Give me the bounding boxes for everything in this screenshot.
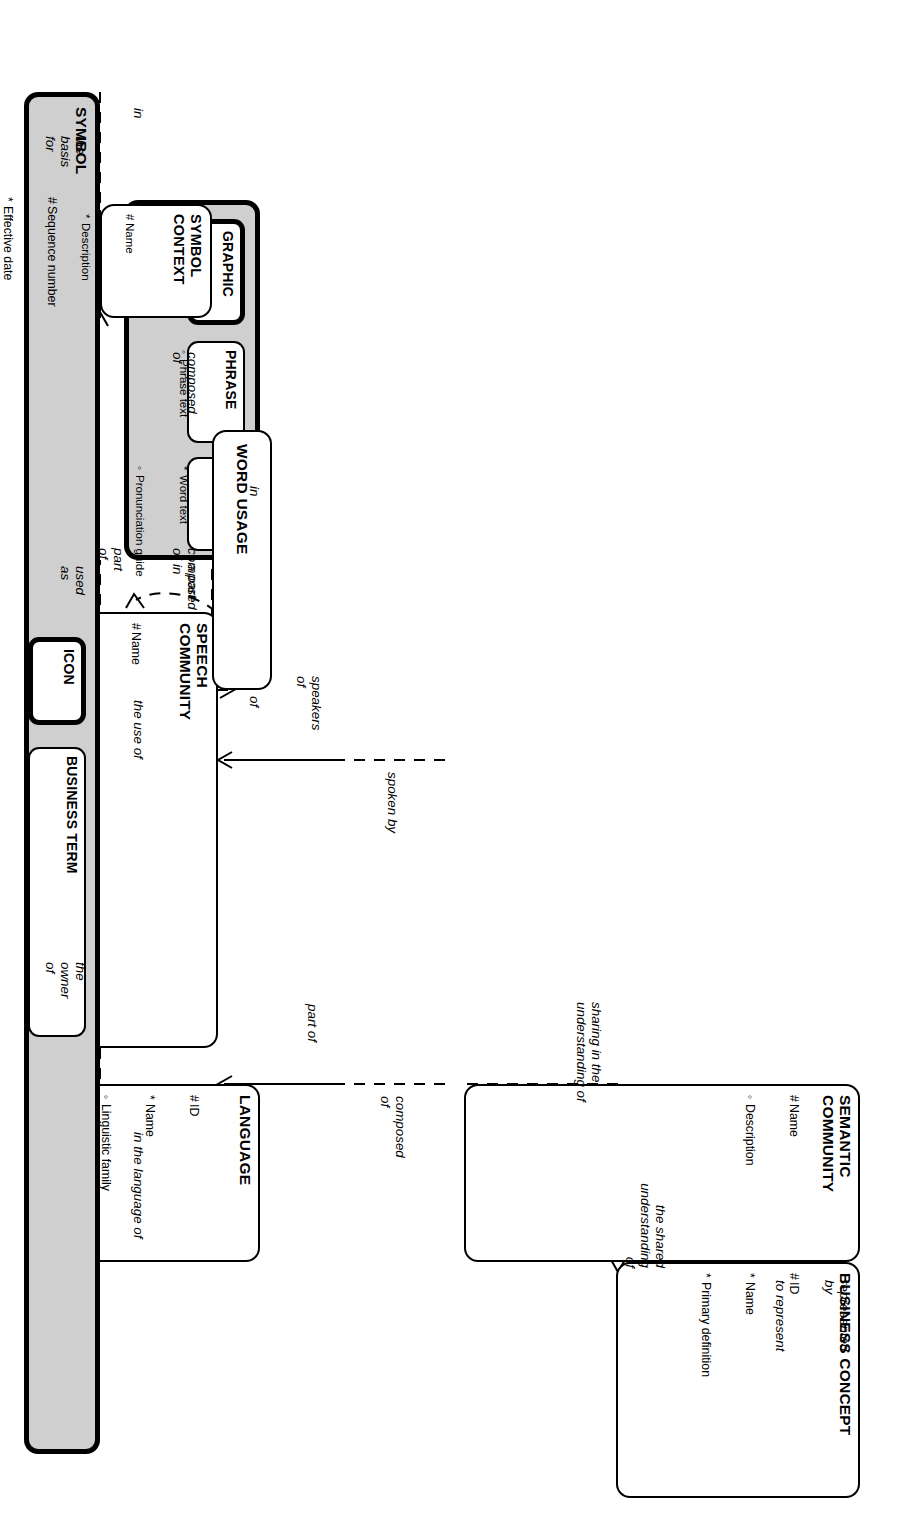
attribute-marker: # (44, 197, 59, 206)
entity-title: ICON (61, 649, 78, 685)
attribute-marker: * (699, 1273, 714, 1282)
attribute-marker: # (786, 1273, 801, 1282)
label-part-of-recursive: part of (96, 548, 126, 571)
attribute-marker: * (176, 466, 191, 475)
entity-symbol[interactable]: SYMBOL #Sequence number *Effective date … (24, 92, 100, 1454)
label-the-use-of: the use of (131, 700, 146, 759)
entity-attributes: #Name *Description (49, 214, 166, 281)
attribute-row: *Effective date (0, 197, 15, 307)
attribute-marker: # (786, 1095, 801, 1104)
label-represented-by: represented by (822, 1280, 852, 1400)
label-the-owner-of: the owner of (43, 962, 88, 998)
label-in-wordusage: in (247, 486, 262, 496)
entity-title: SPEECH COMMUNITY (177, 623, 210, 720)
label-of-wordusage: of (247, 696, 262, 707)
attribute-label: Description (80, 223, 92, 281)
entity-title: GRAPHIC (220, 231, 237, 297)
erd-canvas: BUSINESS CONCEPT #ID *Name *Primary defi… (0, 0, 900, 1534)
label-composed-of-semantic: composed of (378, 1096, 408, 1158)
attribute-row: *Primary definition (699, 1273, 714, 1377)
entity-title: SYMBOL CONTEXT (171, 214, 204, 285)
label-in-the-language-of: in the language of (131, 1132, 146, 1238)
erd-rotated-layer: BUSINESS CONCEPT #ID *Name *Primary defi… (0, 0, 900, 1534)
attribute-label: Effective date (1, 206, 15, 280)
attribute-row: #Name (122, 214, 137, 281)
entity-word-usage[interactable]: WORD USAGE (212, 430, 272, 690)
label-a-part-in: a part in (170, 564, 200, 598)
entity-title: BUSINESS TERM (64, 756, 81, 874)
entity-symbol-context[interactable]: SYMBOL CONTEXT #Name *Description (100, 204, 212, 318)
attribute-label: ID (787, 1282, 801, 1294)
attribute-marker: * (78, 214, 93, 223)
entity-icon[interactable]: ICON (28, 637, 86, 725)
entity-attributes: #Name ◦Description (713, 1095, 830, 1166)
label-used-as: used as (58, 566, 88, 595)
attribute-label: Name (787, 1104, 801, 1137)
label-the-shared-understanding-of: the shared understanding of (623, 1178, 668, 1268)
attribute-marker: * (142, 1095, 157, 1104)
attribute-label: Name (129, 632, 143, 665)
attribute-label: Primary definition (699, 1282, 713, 1377)
attribute-row: #Name (786, 1095, 801, 1166)
attribute-marker: * (0, 197, 15, 206)
attribute-label: Name (743, 1282, 757, 1315)
attribute-marker: # (122, 214, 137, 223)
attribute-marker: # (128, 623, 143, 632)
attribute-row: ◦Description (742, 1095, 757, 1166)
attribute-row: #Name (128, 623, 143, 694)
label-speakers-of: speakers of (294, 676, 324, 730)
label-the-basis-for: the basis for (43, 136, 88, 167)
attribute-row: #ID (786, 1273, 801, 1377)
attribute-label: Linguistic family (99, 1104, 113, 1191)
attribute-marker: ◦ (742, 1095, 757, 1104)
label-to-represent: to represent (773, 1280, 788, 1351)
label-sharing-in-the-understanding-of: sharing in the understanding of (574, 1002, 604, 1102)
attribute-label: Word text (178, 475, 190, 524)
attribute-row: *Description (78, 214, 93, 281)
attribute-marker: * (742, 1273, 757, 1282)
attribute-row: ◦Linguistic family (99, 1095, 114, 1191)
attribute-row: ◦Pronunciation guide (132, 466, 147, 577)
attribute-row: *Name (742, 1273, 757, 1377)
entity-title: WORD USAGE (234, 444, 251, 555)
attribute-label: Description (743, 1104, 757, 1166)
entity-title: LANGUAGE (237, 1095, 254, 1185)
label-part-of-semantic: part of (305, 1004, 320, 1042)
attribute-label: Name (124, 223, 136, 254)
attribute-label: Pronunciation guide (134, 475, 146, 577)
label-in-symbol-context: in (131, 108, 146, 118)
crowfoot-speech-recursive (126, 594, 144, 608)
entity-title: PHRASE (223, 350, 240, 410)
attribute-row: #ID (186, 1095, 201, 1191)
attribute-marker: ◦ (132, 466, 147, 475)
attribute-label: ID (187, 1104, 201, 1116)
label-spoken-by: spoken by (385, 772, 400, 833)
attribute-marker: ◦ (99, 1095, 114, 1104)
label-composed-of-signifier: composed of (170, 352, 200, 414)
entity-attributes: #ID *Name *Primary definition (669, 1273, 830, 1377)
crowfoot-language-speech (218, 752, 232, 768)
attribute-marker: # (186, 1095, 201, 1104)
